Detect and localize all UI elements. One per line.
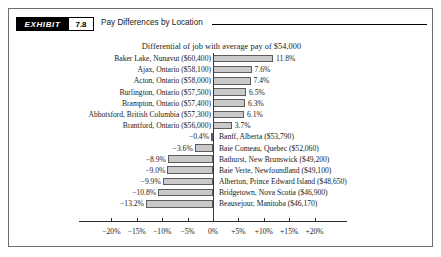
bar-chart-plot: Baker Lake, Nunavut ($60,400)11.8%Ajax, … [9,53,434,218]
bar-row: Brampton, Ontario ($57,400)6.3% [9,98,434,109]
bar-category-label: Beausejour, Manitoba ($46,170) [219,198,317,209]
bar-category-label: Brampton, Ontario ($57,400) [122,98,211,109]
bar-row: Abbotsford, British Columbia ($57,300)6.… [9,109,434,120]
bar-value-label: 6.3% [248,98,264,109]
bar-category-label: Ajax, Ontario ($58,100) [138,64,211,75]
bar [167,166,213,174]
bar-value-label: 11.8% [276,53,295,64]
zero-axis-line [213,53,214,218]
bar [213,111,244,119]
bar [146,200,213,208]
bar-category-label: Abbotsford, British Columbia ($57,300) [88,109,211,120]
exhibit-title: Pay Differences by Location [101,18,203,27]
x-axis-tick [188,218,189,223]
x-axis-tick [137,218,138,223]
bar-value-label: 6.5% [249,87,265,98]
bar-value-label: −10.8% [132,187,156,198]
exhibit-header: EXHIBIT 7.8 Pay Differences by Location [16,17,427,32]
exhibit-figure: EXHIBIT 7.8 Pay Differences by Location … [8,8,433,247]
bar-value-label: −0.4% [189,131,209,142]
bar-category-label: Burlington, Ontario ($57,500) [119,87,211,98]
bar-value-label: 3.7% [235,120,251,131]
x-axis-tick [315,218,316,223]
bar-category-label: Baker Lake, Nunavut ($60,400) [114,53,211,64]
bar-category-label: Bathurst, New Brunswick ($49,200) [219,154,329,165]
bar [213,77,251,85]
bar-row: −10.8%Bridgetown, Nova Scotia ($46,900) [9,187,434,198]
bar [213,55,273,63]
x-axis: −20%−15%−10%−5%0%+5%+10%+15%+20% [9,221,434,245]
bar-row: Acton, Ontario ($58,000)7.4% [9,75,434,86]
bar-row: Ajax, Ontario ($58,100)7.6% [9,64,434,75]
bar-category-label: Baie Comeau, Quebec ($52,060) [219,143,319,154]
x-axis-tick [111,218,112,223]
bar-row: Baker Lake, Nunavut ($60,400)11.8% [9,53,434,64]
bar-category-label: Banff, Alberta ($53,790) [219,131,294,142]
bar [213,66,252,74]
x-axis-tick [213,218,214,223]
header-rule [212,24,427,25]
bar-value-label: 7.4% [254,75,270,86]
bar-value-label: −9.0% [145,165,165,176]
bar-row: −9.9%Alberton, Prince Edward Island ($48… [9,176,434,187]
bar-row: Brantford, Ontario ($56,000)3.7% [9,120,434,131]
bar-row: −3.6%Baie Comeau, Quebec ($52,060) [9,143,434,154]
bar-value-label: −13.2% [120,198,144,209]
bar [195,144,213,152]
bar-value-label: −3.6% [173,143,193,154]
chart-subtitle: Differential of job with average pay of … [9,42,434,51]
x-axis-tick-label: +20% [295,227,335,236]
bar-value-label: −9.9% [141,176,161,187]
bar-row: −9.0%Baie Verte, Newfoundland ($49,100) [9,165,434,176]
bar-category-label: Brantford, Ontario ($56,000) [123,120,211,131]
bar [158,189,213,197]
bar-category-label: Baie Verte, Newfoundland ($49,100) [219,165,331,176]
x-axis-tick [238,218,239,223]
bar-category-label: Acton, Ontario ($58,000) [134,75,211,86]
bar-value-label: 7.6% [255,64,271,75]
bar [213,88,246,96]
bar-value-label: −8.9% [146,154,166,165]
bar-category-label: Bridgetown, Nova Scotia ($46,900) [219,187,328,198]
exhibit-badge: EXHIBIT [16,17,69,31]
bar [163,178,213,186]
x-axis-tick [162,218,163,223]
x-axis-tick [264,218,265,223]
bar-row: Burlington, Ontario ($57,500)6.5% [9,87,434,98]
bar [213,122,232,130]
bar-row: −0.4%Banff, Alberta ($53,790) [9,131,434,142]
bar-row: −8.9%Bathurst, New Brunswick ($49,200) [9,154,434,165]
bar [168,155,213,163]
bar [213,99,245,107]
bar-category-label: Alberton, Prince Edward Island ($48,650) [219,176,347,187]
x-axis-tick [289,218,290,223]
bar-row: −13.2%Beausejour, Manitoba ($46,170) [9,198,434,209]
exhibit-number: 7.8 [69,17,94,31]
bar-value-label: 6.1% [247,109,263,120]
